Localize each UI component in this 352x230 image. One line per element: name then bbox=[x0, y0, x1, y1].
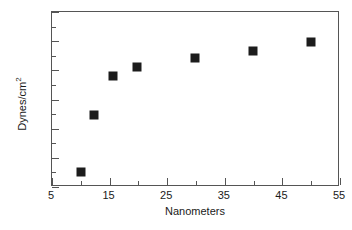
y-axis-minor-tick bbox=[52, 172, 56, 173]
y-axis-major-tick bbox=[52, 70, 59, 71]
y-axis-major-tick bbox=[52, 187, 59, 188]
x-axis-minor-tick bbox=[311, 181, 312, 185]
x-axis-major-tick bbox=[282, 178, 283, 185]
x-axis-major-tick bbox=[340, 178, 341, 185]
data-point-marker bbox=[76, 167, 85, 176]
plot-area bbox=[51, 11, 339, 186]
y-axis-title: Dynes/cm2 bbox=[16, 44, 28, 164]
y-axis-minor-tick bbox=[52, 143, 56, 144]
data-point-marker bbox=[190, 53, 199, 62]
x-axis-minor-tick bbox=[81, 181, 82, 185]
y-axis-major-tick bbox=[52, 100, 59, 101]
data-point-marker bbox=[133, 62, 142, 71]
x-axis-tick-label: 45 bbox=[275, 189, 287, 201]
y-axis-title-text: Dynes/cm bbox=[16, 82, 28, 131]
y-axis-minor-tick bbox=[52, 27, 56, 28]
data-point-marker bbox=[306, 37, 315, 46]
x-axis-minor-tick bbox=[138, 181, 139, 185]
x-axis-title: Nanometers bbox=[51, 205, 339, 217]
x-axis-major-tick bbox=[167, 178, 168, 185]
x-axis-tick-label: 55 bbox=[333, 189, 345, 201]
data-point-marker bbox=[109, 72, 118, 81]
x-axis-minor-tick bbox=[254, 181, 255, 185]
x-axis-tick-label: 35 bbox=[218, 189, 230, 201]
y-axis-minor-tick bbox=[52, 56, 56, 57]
y-axis-title-superscript: 2 bbox=[14, 77, 23, 81]
y-axis-major-tick bbox=[52, 12, 59, 13]
scatter-chart: Nanometers Dynes/cm2 5152535455560006200… bbox=[0, 0, 352, 230]
x-axis-major-tick bbox=[110, 178, 111, 185]
x-axis-tick-label: 15 bbox=[102, 189, 114, 201]
y-axis-major-tick bbox=[52, 129, 59, 130]
y-axis-major-tick bbox=[52, 158, 59, 159]
x-axis-minor-tick bbox=[196, 181, 197, 185]
x-axis-major-tick bbox=[225, 178, 226, 185]
data-point-marker bbox=[90, 110, 99, 119]
data-point-marker bbox=[249, 47, 258, 56]
x-axis-major-tick bbox=[52, 178, 53, 185]
x-axis-tick-label: 5 bbox=[48, 189, 54, 201]
y-axis-minor-tick bbox=[52, 114, 56, 115]
y-axis-major-tick bbox=[52, 41, 59, 42]
y-axis-minor-tick bbox=[52, 85, 56, 86]
x-axis-tick-label: 25 bbox=[160, 189, 172, 201]
